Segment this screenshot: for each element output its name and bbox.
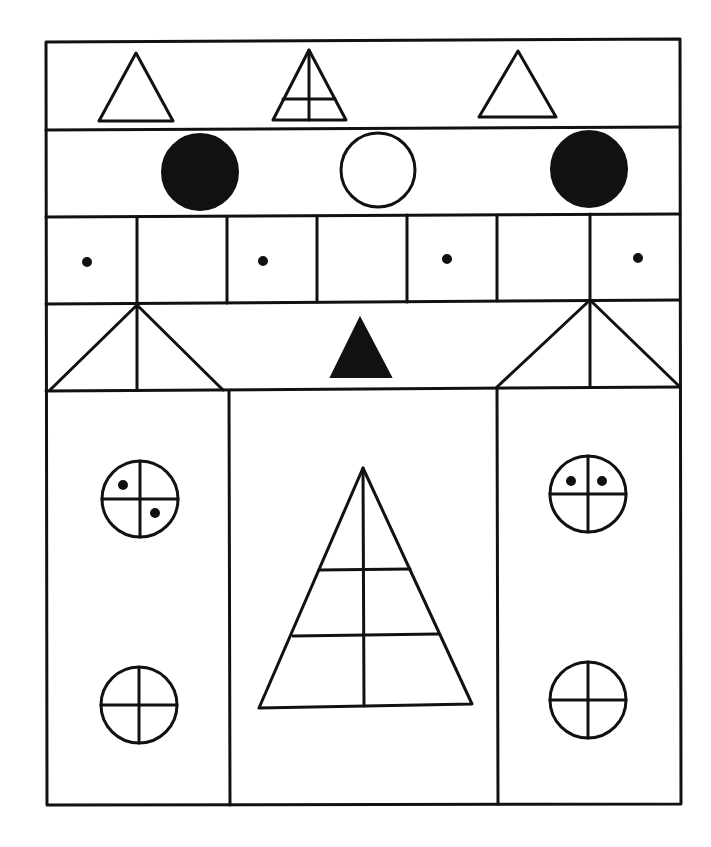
quartered-circle-upper-right: [550, 456, 626, 532]
open-circle-center: [341, 133, 415, 207]
outline-triangle-left: [99, 53, 173, 121]
geometric-figure: [0, 0, 711, 847]
outline-triangle-right: [479, 51, 556, 117]
lower-column-divider-right: [497, 388, 498, 804]
row-divider-2: [46, 214, 680, 217]
row-divider-1: [46, 127, 680, 130]
filled-circle-right: [551, 131, 627, 207]
subdivided-triangle-center: [273, 50, 346, 120]
diagram-canvas: [0, 0, 711, 847]
left-roof-triangle: [50, 305, 223, 390]
filled-triangle-center: [331, 318, 391, 377]
row3-dots: [83, 254, 642, 266]
filled-circle-left: [162, 134, 238, 210]
large-subdivided-triangle: [259, 468, 472, 708]
lower-column-divider-left: [229, 391, 230, 805]
quartered-circle-lower-left: [101, 667, 177, 743]
quartered-circle-upper-left: [102, 461, 178, 537]
row-divider-4: [46, 387, 680, 391]
quartered-circle-lower-right: [550, 662, 626, 738]
right-roof-triangle: [497, 300, 679, 387]
row3-cell-grid: [137, 214, 590, 304]
